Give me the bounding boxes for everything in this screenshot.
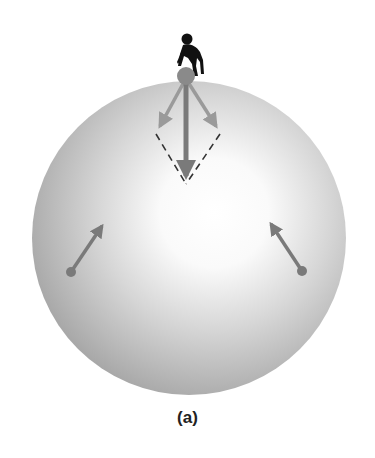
gravity-sphere-diagram bbox=[0, 0, 375, 458]
planet-sphere bbox=[32, 81, 346, 395]
mass-point-right bbox=[297, 266, 307, 276]
figure-caption: (a) bbox=[0, 408, 375, 428]
test-mass-ball bbox=[177, 67, 195, 85]
mass-point-left bbox=[66, 267, 76, 277]
